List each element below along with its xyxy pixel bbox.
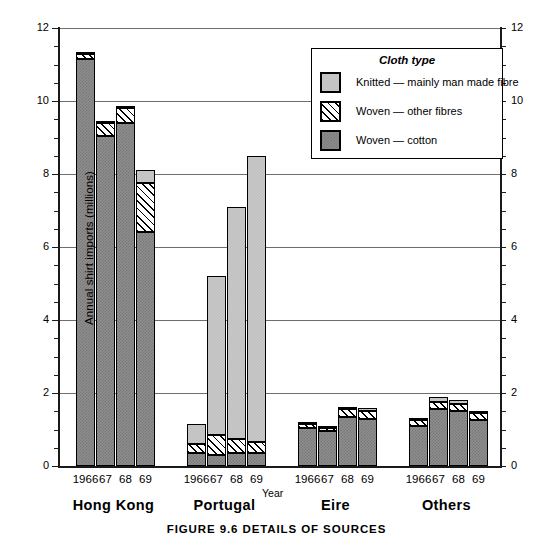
y-axis-minor-tick — [502, 284, 506, 285]
bar-segment-woven-cotton — [409, 426, 428, 466]
bar-segment-knitted — [318, 426, 337, 428]
bar-segment-knitted — [247, 156, 266, 443]
bar-segment-woven-cotton — [207, 455, 226, 466]
figure-caption: FIGURE 9.6 DETAILS OF SOURCES — [0, 523, 553, 536]
y-axis-minor-tick — [502, 448, 506, 449]
legend-label-woven-cotton: Woven — cotton — [356, 134, 437, 146]
y-axis-minor-tick — [54, 119, 58, 120]
legend-swatch-woven-cotton — [320, 130, 341, 151]
bar-segment-woven-other — [247, 442, 266, 453]
bar-hong-kong-67[interactable] — [96, 121, 115, 466]
bar-segment-woven-cotton — [136, 232, 155, 466]
gridline — [60, 28, 500, 29]
x-axis — [58, 466, 502, 468]
chart-legend: Cloth type Knitted — mainly man made fib… — [311, 48, 503, 159]
y-axis-tick — [500, 28, 506, 29]
bar-eire-68[interactable] — [338, 408, 357, 466]
bar-others-69[interactable] — [469, 411, 488, 466]
y-axis-minor-tick — [502, 211, 506, 212]
y-axis-minor-tick — [502, 338, 506, 339]
bar-segment-knitted — [116, 106, 135, 108]
bar-segment-woven-cotton — [247, 453, 266, 466]
bar-segment-woven-other — [227, 439, 246, 454]
bar-segment-woven-other — [449, 404, 468, 411]
y-axis-tick — [52, 320, 58, 321]
y-axis-tick-label-right: 8 — [511, 168, 517, 179]
bar-segment-woven-cotton — [449, 411, 468, 466]
bar-segment-woven-cotton — [187, 453, 206, 466]
bar-portugal-69[interactable] — [247, 156, 266, 466]
y-axis-tick — [500, 247, 506, 248]
y-axis-minor-tick — [54, 65, 58, 66]
bar-segment-knitted — [136, 170, 155, 183]
y-axis-minor-tick — [54, 138, 58, 139]
bar-others-67[interactable] — [429, 397, 448, 466]
y-axis-minor-tick — [54, 46, 58, 47]
y-axis-tick-label-left: 12 — [37, 22, 49, 33]
bar-others-1966[interactable] — [409, 419, 428, 466]
x-axis-group-label-others: Others — [391, 497, 502, 513]
figure-canvas: 002244668810101212 Annual shirt imports … — [0, 0, 553, 536]
y-axis-minor-tick — [54, 375, 58, 376]
bar-segment-woven-other — [76, 54, 95, 59]
legend-item-knitted[interactable]: Knitted — mainly man made fibre — [320, 72, 496, 94]
y-axis-minor-tick — [54, 265, 58, 266]
bar-segment-woven-cotton — [429, 409, 448, 466]
bar-segment-woven-cotton — [338, 417, 357, 466]
bar-portugal-1966[interactable] — [187, 424, 206, 466]
bar-segment-knitted — [96, 121, 115, 123]
bar-hong-kong-68[interactable] — [116, 106, 135, 466]
legend-swatch-woven-other — [320, 101, 341, 122]
bar-segment-woven-cotton — [96, 136, 115, 466]
bar-eire-69[interactable] — [358, 408, 377, 466]
y-axis-tick — [52, 393, 58, 394]
y-axis-tick — [52, 247, 58, 248]
bar-portugal-68[interactable] — [227, 207, 246, 466]
y-axis-tick-label-right: 4 — [511, 314, 517, 325]
y-axis-tick-label-right: 2 — [511, 387, 517, 398]
y-axis-minor-tick — [502, 265, 506, 266]
bar-segment-woven-cotton — [469, 420, 488, 466]
bar-others-68[interactable] — [449, 400, 468, 466]
bar-segment-woven-other — [429, 402, 448, 409]
bar-eire-67[interactable] — [318, 426, 337, 466]
x-axis-tick-label-69: 69 — [346, 473, 389, 485]
y-axis-minor-tick — [54, 338, 58, 339]
y-axis-minor-tick — [54, 229, 58, 230]
legend-item-woven-cotton[interactable]: Woven — cotton — [320, 130, 496, 152]
y-axis-tick — [52, 101, 58, 102]
bar-segment-knitted — [409, 418, 428, 420]
legend-label-woven-other: Woven — other fibres — [356, 105, 462, 117]
y-axis-tick — [500, 174, 506, 175]
bar-segment-woven-other — [207, 435, 226, 455]
y-axis-tick-label-right: 6 — [511, 241, 517, 252]
y-axis-minor-tick — [502, 357, 506, 358]
bar-eire-1966[interactable] — [298, 422, 317, 466]
bar-segment-knitted — [358, 408, 377, 412]
bar-segment-woven-cotton — [116, 123, 135, 466]
bar-segment-woven-cotton — [318, 431, 337, 466]
bar-hong-kong-69[interactable] — [136, 170, 155, 466]
legend-label-knitted: Knitted — mainly man made fibre — [356, 76, 519, 88]
y-axis-minor-tick — [54, 430, 58, 431]
bar-portugal-67[interactable] — [207, 276, 226, 466]
y-axis-tick — [52, 28, 58, 29]
x-axis-group-label-eire: Eire — [280, 497, 391, 513]
y-axis-minor-tick — [502, 302, 506, 303]
y-axis-tick — [500, 393, 506, 394]
bar-segment-woven-other — [187, 444, 206, 453]
y-axis-minor-tick — [54, 83, 58, 84]
y-axis-minor-tick — [502, 411, 506, 412]
x-axis-tick-label-69: 69 — [457, 473, 500, 485]
y-axis-minor-tick — [54, 211, 58, 212]
x-axis-group-label-portugal: Portugal — [169, 497, 280, 513]
y-axis-tick-label-right: 10 — [511, 95, 523, 106]
y-axis-minor-tick — [54, 357, 58, 358]
y-axis-tick-label-left: 8 — [43, 168, 49, 179]
legend-item-woven-other[interactable]: Woven — other fibres — [320, 101, 496, 123]
bar-segment-knitted — [187, 424, 206, 444]
bar-segment-woven-other — [136, 183, 155, 232]
y-axis-tick-label-right: 12 — [511, 22, 523, 33]
bar-segment-woven-other — [338, 409, 357, 416]
y-axis-label: Annual shirt imports (millions) — [83, 171, 95, 325]
